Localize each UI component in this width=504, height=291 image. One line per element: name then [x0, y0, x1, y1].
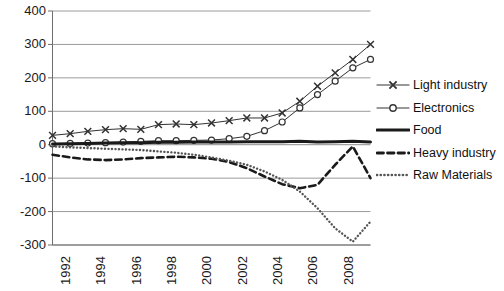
- data-point-marker: [350, 65, 356, 71]
- data-point-marker: [349, 56, 356, 63]
- x-axis-tick-label: 2002: [236, 256, 249, 285]
- legend-label: Heavy industry: [413, 146, 496, 160]
- line-x-marker-icon: [376, 78, 410, 92]
- y-axis-tick-label: 300: [2, 37, 46, 50]
- data-point-marker: [279, 110, 286, 117]
- x-axis-tick-label: 1994: [94, 256, 107, 285]
- x-axis-tick-label: 1992: [59, 256, 72, 285]
- legend-item-heavy-industry: Heavy industry: [376, 142, 504, 165]
- x-axis-tick-label: 1996: [130, 256, 143, 285]
- legend-item-food: Food: [376, 119, 504, 142]
- data-point-marker: [279, 119, 285, 125]
- series-electronics: [50, 56, 374, 146]
- y-axis-tick-label: 400: [2, 4, 46, 17]
- data-point-marker: [315, 92, 321, 98]
- thick-line-icon: [376, 123, 410, 137]
- data-point-marker: [262, 128, 268, 134]
- y-axis-tick-label: 0: [2, 138, 46, 151]
- legend-item-electronics: Electronics: [376, 97, 504, 120]
- legend-item-light-industry: Light industry: [376, 74, 504, 97]
- line-circle-marker-icon: [376, 101, 410, 115]
- y-axis-tick-label: 200: [2, 71, 46, 84]
- dotted-line-icon: [376, 168, 410, 182]
- data-point-marker: [297, 105, 303, 111]
- legend-label: Food: [413, 123, 442, 137]
- legend-label: Electronics: [413, 101, 474, 115]
- x-axis-tick-label: 2006: [306, 256, 319, 285]
- data-point-marker: [296, 98, 303, 105]
- data-point-marker: [244, 133, 250, 139]
- data-point-marker: [314, 83, 321, 90]
- x-axis-tick-label: 2000: [200, 256, 213, 285]
- series-heavy-industry: [53, 146, 371, 188]
- series-food: [53, 141, 371, 144]
- data-point-marker: [368, 56, 374, 62]
- chart-legend: Light industryElectronicsFoodHeavy indus…: [376, 74, 504, 187]
- x-axis-tick-label: 2008: [342, 256, 355, 285]
- series-light-industry: [49, 41, 374, 139]
- data-point-marker: [332, 69, 339, 76]
- y-axis-tick-label: -200: [2, 205, 46, 218]
- y-axis-tick-label: 100: [2, 104, 46, 117]
- legend-label: Light industry: [413, 78, 487, 92]
- x-axis-tick-label: 1998: [165, 256, 178, 285]
- dashed-line-icon: [376, 146, 410, 160]
- data-point-marker: [332, 78, 338, 84]
- y-axis-tick-label: -300: [2, 238, 46, 251]
- y-axis-tick-label: -100: [2, 171, 46, 184]
- line-chart: 4003002001000-100-200-300 19921994199619…: [0, 0, 504, 291]
- legend-item-raw-materials: Raw Materials: [376, 164, 504, 187]
- legend-label: Raw Materials: [413, 168, 492, 182]
- x-axis-tick-label: 2004: [271, 256, 284, 285]
